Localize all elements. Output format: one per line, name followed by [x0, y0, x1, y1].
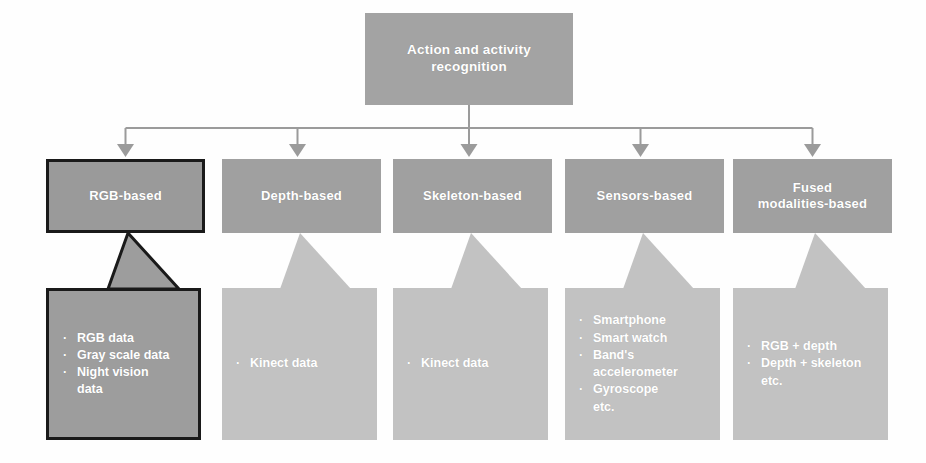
content-list-item-label: etc.: [593, 400, 615, 414]
content-list-item-label: Night vision data: [77, 365, 149, 396]
callout-tail-skeleton-based: [451, 233, 522, 289]
bullet-icon: ·: [579, 312, 583, 329]
content-list-rgb-based: ·RGB data·Gray scale data·Night vision d…: [63, 330, 169, 399]
category-label-fused-modalities-based: Fused modalities-based: [758, 180, 867, 213]
bullet-icon: ·: [63, 347, 67, 364]
content-list-depth-based: ·Kinect data: [236, 355, 317, 372]
callout-tail-depth-based: [280, 233, 351, 289]
content-list-item-label: Gyroscope: [593, 382, 658, 396]
content-list-item-label: Kinect data: [421, 356, 488, 370]
content-list-item: ·Depth + skeleton: [747, 355, 861, 372]
content-list-item: ·Gray scale data: [63, 347, 169, 364]
category-node-fused-modalities-based[interactable]: Fused modalities-based: [733, 159, 892, 233]
content-list-sensors-based: ·Smartphone·Smart watch·Band's accelerom…: [579, 312, 678, 416]
category-label-rgb-based: RGB-based: [89, 188, 162, 204]
category-label-depth-based: Depth-based: [261, 188, 342, 204]
content-node-fused-modalities-based[interactable]: ·RGB + depth·Depth + skeletonetc.: [733, 288, 888, 440]
arrowhead-depth-based: [289, 144, 306, 157]
root-node-action-and-activity-recognition[interactable]: Action and activity recognition: [365, 13, 573, 105]
bullet-icon: ·: [236, 355, 240, 372]
arrowhead-sensors-based: [632, 144, 649, 157]
content-list-item: etc.: [579, 399, 678, 416]
content-list-item-label: Smartphone: [593, 313, 666, 327]
bullet-icon: ·: [579, 347, 583, 364]
category-label-sensors-based: Sensors-based: [597, 188, 693, 204]
content-list-item: ·RGB + depth: [747, 338, 861, 355]
category-node-skeleton-based[interactable]: Skeleton-based: [393, 159, 552, 233]
content-list-fused-modalities-based: ·RGB + depth·Depth + skeletonetc.: [747, 338, 861, 390]
content-node-rgb-based[interactable]: ·RGB data·Gray scale data·Night vision d…: [46, 288, 201, 440]
content-list-item: ·Smartphone: [579, 312, 678, 329]
content-list-item: ·Kinect data: [236, 355, 317, 372]
bullet-icon: ·: [579, 381, 583, 398]
content-node-skeleton-based[interactable]: ·Kinect data: [393, 288, 548, 440]
content-list-item: ·Band's accelerometer: [579, 347, 678, 382]
content-list-item-label: Depth + skeleton: [761, 356, 861, 370]
arrowhead-fused-modalities-based: [804, 144, 821, 157]
bullet-icon: ·: [407, 355, 411, 372]
content-list-item-label: Gray scale data: [77, 348, 169, 362]
content-list-item: ·Gyroscope: [579, 381, 678, 398]
category-node-depth-based[interactable]: Depth-based: [222, 159, 381, 233]
content-list-item-label: RGB + depth: [761, 339, 837, 353]
content-list-item: ·Night vision data: [63, 364, 169, 399]
arrowhead-skeleton-based: [461, 144, 478, 157]
category-label-skeleton-based: Skeleton-based: [423, 188, 522, 204]
diagram-canvas: Action and activity recognition RGB-base…: [0, 0, 926, 463]
bullet-icon: ·: [747, 355, 751, 372]
bullet-icon: ·: [63, 364, 67, 381]
callout-tail-fused-modalities-based: [795, 233, 866, 289]
callout-tail-sensors-based: [623, 233, 694, 289]
bullet-icon: ·: [747, 338, 751, 355]
root-node-label: Action and activity recognition: [407, 42, 531, 76]
content-list-item: ·Kinect data: [407, 355, 488, 372]
arrowhead-rgb-based: [117, 144, 134, 157]
content-list-item: ·RGB data: [63, 330, 169, 347]
content-list-item-label: Kinect data: [250, 356, 317, 370]
bullet-icon: ·: [579, 330, 583, 347]
content-node-sensors-based[interactable]: ·Smartphone·Smart watch·Band's accelerom…: [565, 288, 720, 440]
content-list-item-label: Band's accelerometer: [593, 348, 678, 379]
category-node-sensors-based[interactable]: Sensors-based: [565, 159, 724, 233]
content-list-item-label: RGB data: [77, 331, 134, 345]
content-list-item: etc.: [747, 373, 861, 390]
category-node-rgb-based[interactable]: RGB-based: [46, 159, 205, 233]
bullet-icon: ·: [63, 330, 67, 347]
content-list-item-label: etc.: [761, 374, 783, 388]
content-list-skeleton-based: ·Kinect data: [407, 355, 488, 372]
callout-tail-rgb-based: [108, 233, 179, 289]
content-node-depth-based[interactable]: ·Kinect data: [222, 288, 377, 440]
content-list-item-label: Smart watch: [593, 331, 667, 345]
content-list-item: ·Smart watch: [579, 330, 678, 347]
